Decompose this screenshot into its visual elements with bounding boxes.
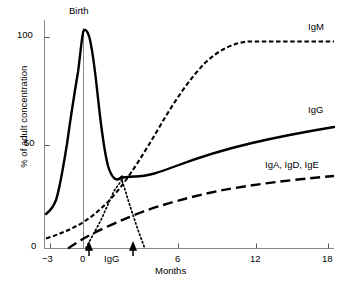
y-tick-label-50: 50 <box>24 138 35 148</box>
series-iga-igd-ige-curve <box>68 176 334 249</box>
series-label-iga-igd-ige: IgA, IgD, IgE <box>265 160 319 170</box>
y-axis-title: % of adult concentration <box>19 47 29 187</box>
x-tick-label-6: 6 <box>175 254 180 264</box>
y-tick-marks <box>45 38 50 146</box>
series-igm-curve <box>46 42 334 239</box>
x-tick-label-12: 12 <box>250 254 261 264</box>
marker-arrow-1 <box>86 243 92 256</box>
immunoglobulin-chart: % of adult concentration 100 50 0 −3 0 6… <box>0 0 349 283</box>
x-tick-label-18: 18 <box>322 254 333 264</box>
series-igg-curve <box>118 127 334 179</box>
chart-plot-area <box>0 0 349 283</box>
marker-arrow-2 <box>130 243 136 256</box>
x-axis-title: Months <box>155 266 186 276</box>
y-tick-label-0: 0 <box>31 241 36 251</box>
x-tick-marks <box>51 244 329 249</box>
x-tick-label-minus3: −3 <box>42 254 53 264</box>
birth-label: Birth <box>69 6 89 16</box>
y-tick-label-100: 100 <box>17 30 33 40</box>
series-label-igm: IgM <box>308 22 324 32</box>
series-infant-igg-dotted <box>86 177 124 248</box>
series-label-igg: IgG <box>308 105 323 115</box>
x-tick-label-0: 0 <box>80 254 85 264</box>
igg-axis-annotation: IgG <box>104 254 119 264</box>
